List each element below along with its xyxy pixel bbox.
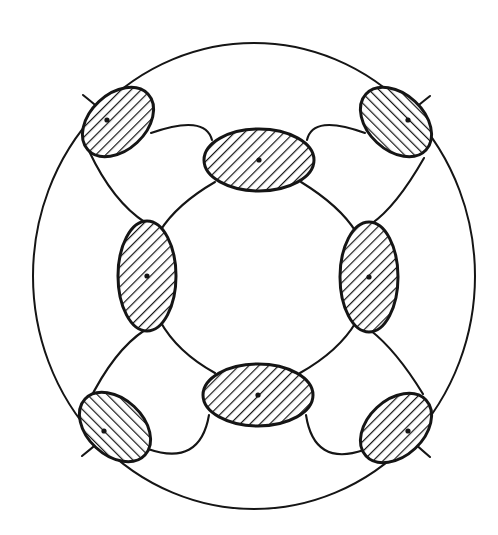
connector-group-inner xyxy=(160,182,356,373)
node-top[interactable] xyxy=(204,129,314,191)
node-bottom-right[interactable] xyxy=(347,380,445,477)
node-bottom-right-center-dot xyxy=(405,428,410,433)
node-bottom-left-ellipse[interactable] xyxy=(66,379,164,476)
arc-inner-top-to-right xyxy=(301,182,356,232)
arc-inner-bottom-to-left xyxy=(160,321,215,373)
node-bottom-left[interactable] xyxy=(66,379,164,476)
arc-outer-top-right-to-right xyxy=(371,158,424,224)
diagram-canvas xyxy=(0,0,498,535)
diagram-figure xyxy=(0,0,498,535)
arc-outer-bottom-right-to-bottom xyxy=(306,415,364,454)
arc-outer-bottom-to-bottom-left xyxy=(148,415,209,454)
node-bottom[interactable] xyxy=(203,364,313,426)
node-right[interactable] xyxy=(340,222,398,332)
arc-inner-left-to-top xyxy=(160,182,215,231)
node-top-left-ellipse[interactable] xyxy=(69,74,167,171)
node-top-left[interactable] xyxy=(69,74,167,171)
node-top-right-center-dot xyxy=(405,117,410,122)
node-bottom-right-ellipse[interactable] xyxy=(347,380,445,477)
arc-outer-left-to-top-left xyxy=(89,151,146,223)
node-top-left-center-dot xyxy=(104,117,109,122)
arc-outer-right-to-bottom-right xyxy=(370,330,423,394)
node-bottom-left-center-dot xyxy=(101,428,106,433)
node-top-right-ellipse[interactable] xyxy=(347,74,445,171)
node-top-center-dot xyxy=(256,157,261,162)
node-left[interactable] xyxy=(118,221,176,331)
arc-outer-top-left-to-top xyxy=(151,125,212,140)
arc-inner-right-to-bottom xyxy=(300,322,356,373)
node-right-center-dot xyxy=(366,274,371,279)
node-left-center-dot xyxy=(144,273,149,278)
node-bottom-center-dot xyxy=(255,392,260,397)
node-top-right[interactable] xyxy=(347,74,445,171)
arc-outer-top-to-top-right xyxy=(307,125,365,140)
